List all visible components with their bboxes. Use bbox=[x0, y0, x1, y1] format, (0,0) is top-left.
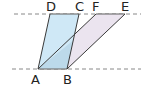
label-f: F bbox=[92, 0, 99, 14]
label-b: B bbox=[63, 72, 72, 87]
label-c: C bbox=[75, 0, 84, 14]
label-a: A bbox=[31, 72, 40, 87]
label-e: E bbox=[121, 0, 129, 14]
label-d: D bbox=[46, 0, 56, 14]
diagram-canvas: D C F E A B bbox=[0, 0, 141, 89]
